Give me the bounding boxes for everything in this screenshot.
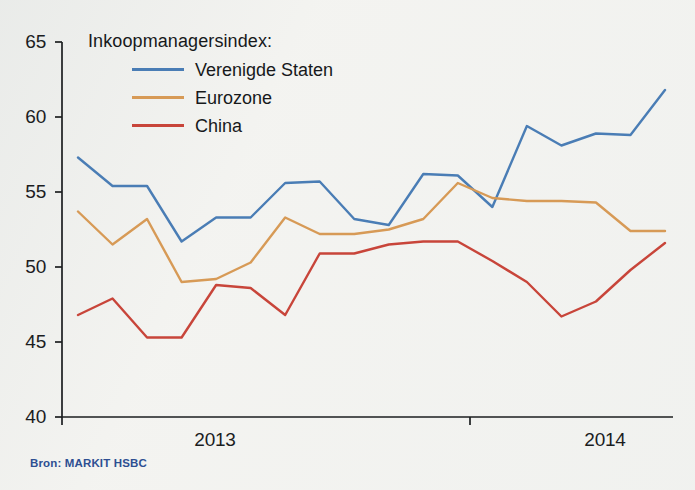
legend-entry-label: Verenigde Staten	[195, 60, 333, 80]
y-axis-tick-label: 40	[0, 406, 46, 428]
legend-entry: China	[132, 114, 333, 137]
y-axis-tick-label: 45	[0, 331, 46, 353]
legend-entry-label: China	[195, 116, 242, 136]
legend-title: Inkoopmanagersindex:	[88, 30, 333, 52]
legend-entry: Eurozone	[132, 86, 333, 109]
x-axis-tick-label: 2013	[170, 429, 260, 451]
source-note: Bron: MARKIT HSBC	[30, 457, 147, 469]
chart-figure: 656055504540 20132014 Inkoopmanagersinde…	[0, 0, 695, 490]
legend-color-swatch-icon	[132, 124, 184, 127]
y-axis-tick-label: 55	[0, 181, 46, 203]
legend-entry-label: Eurozone	[195, 88, 272, 108]
legend-entry: Verenigde Staten	[132, 58, 333, 81]
legend-color-swatch-icon	[132, 96, 184, 99]
chart-legend: Inkoopmanagersindex: Verenigde StatenEur…	[88, 30, 333, 137]
y-axis-tick-label: 65	[0, 31, 46, 53]
x-axis-tick-label: 2014	[560, 429, 650, 451]
series-line-eurozone	[78, 183, 665, 282]
y-axis-tick-label: 60	[0, 106, 46, 128]
y-axis-tick-label: 50	[0, 256, 46, 278]
legend-entries: Verenigde StatenEurozoneChina	[88, 58, 333, 137]
legend-color-swatch-icon	[132, 68, 184, 71]
